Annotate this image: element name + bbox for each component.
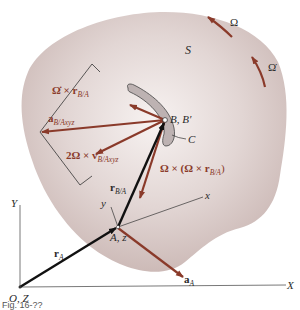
axis-x-label: x	[205, 190, 210, 201]
point-O	[19, 286, 22, 289]
vector-r-A	[20, 228, 116, 287]
label-r-A: rA	[54, 248, 63, 262]
label-omegadot-cross-r: Ω̇ × rB/A	[52, 85, 89, 99]
point-B	[163, 118, 168, 123]
label-centripetal: Ω × (Ω × rB/A)	[160, 163, 225, 177]
point-B-label: B, B′	[170, 114, 191, 125]
X-axis	[20, 285, 286, 287]
axis-X-label: X	[287, 280, 294, 291]
omega-dot-label: Ω̇	[268, 62, 276, 73]
label-a-BAxyz: aB/Axyz	[48, 113, 74, 127]
point-A-label: A, z	[110, 232, 127, 243]
region-label-S: S	[185, 44, 191, 56]
figure-caption: Fig. 16-??	[2, 300, 43, 310]
axis-Y-label: Y	[11, 198, 17, 209]
label-coriolis: 2Ω × vB/Axyz	[66, 150, 118, 164]
omega-label: Ω	[230, 17, 238, 28]
axis-y-label: y	[101, 198, 106, 209]
label-r-BA: rB/A	[110, 182, 126, 196]
point-A	[116, 225, 119, 228]
rigid-body-S	[22, 12, 287, 272]
label-a-A: aA	[184, 274, 194, 288]
curve-C-label: C	[188, 134, 195, 145]
